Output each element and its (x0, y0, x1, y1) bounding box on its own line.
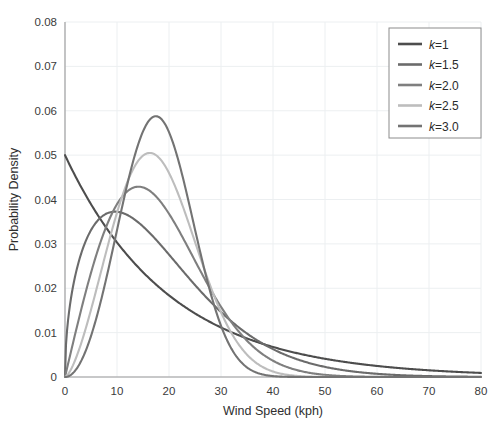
legend-label-k-1[interactable]: k=1 (429, 38, 449, 52)
x-tick-label: 30 (215, 385, 228, 397)
y-tick-label: 0.08 (35, 16, 57, 28)
x-tick-label: 50 (319, 385, 332, 397)
x-tick-label: 40 (267, 385, 280, 397)
x-tick-labels: 01020304050607080 (62, 385, 488, 397)
x-tick-label: 60 (371, 385, 384, 397)
y-tick-label: 0.04 (35, 194, 58, 206)
legend-label-k-3-0[interactable]: k=3.0 (429, 120, 459, 134)
legend-label-k-2-5[interactable]: k=2.5 (429, 99, 459, 113)
y-tick-label: 0 (51, 371, 57, 383)
x-tick-label: 80 (475, 385, 488, 397)
x-tick-label: 10 (111, 385, 124, 397)
y-tick-label: 0.07 (35, 60, 57, 72)
y-tick-label: 0.02 (35, 282, 57, 294)
x-tick-label: 20 (163, 385, 176, 397)
x-axis-title: Wind Speed (kph) (223, 404, 323, 418)
y-tick-label: 0.01 (35, 327, 57, 339)
legend[interactable]: k=1k=1.5k=2.0k=2.5k=3.0 (389, 28, 481, 138)
x-tick-label: 70 (423, 385, 436, 397)
y-tick-label: 0.06 (35, 105, 57, 117)
weibull-line-chart: 00.010.020.030.040.050.060.070.08 010203… (0, 0, 501, 430)
y-tick-label: 0.05 (35, 149, 57, 161)
legend-label-k-2-0[interactable]: k=2.0 (429, 79, 459, 93)
x-tick-label: 0 (62, 385, 68, 397)
y-tick-labels: 00.010.020.030.040.050.060.070.08 (35, 16, 58, 383)
y-axis-title: Probability Density (7, 147, 21, 251)
y-tick-label: 0.03 (35, 238, 57, 250)
chart-figure: 00.010.020.030.040.050.060.070.08 010203… (0, 0, 501, 430)
legend-label-k-1-5[interactable]: k=1.5 (429, 58, 459, 72)
